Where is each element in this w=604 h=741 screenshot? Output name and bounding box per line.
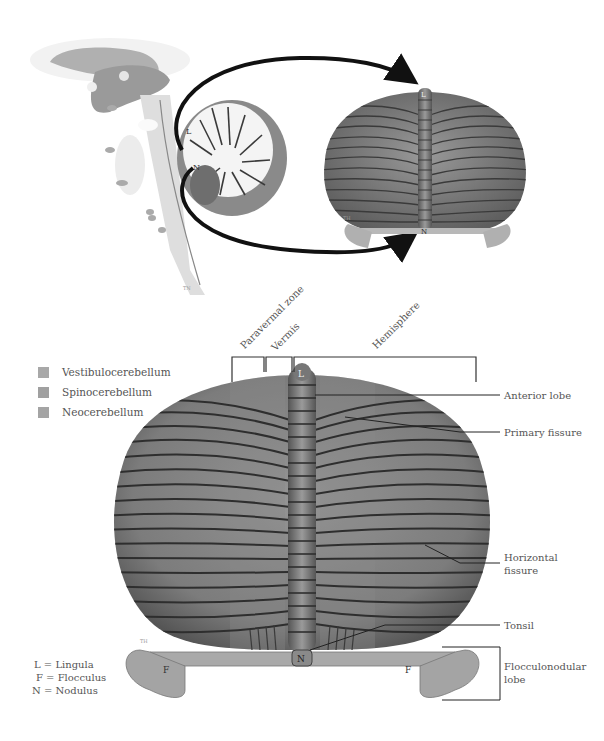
label-flocculonodular-lobe: Flocculonodular lobe xyxy=(504,660,586,686)
nodulus-marker: N xyxy=(297,654,305,664)
swatch-neocerebellum xyxy=(38,407,49,418)
lingula-marker-sagittal: L xyxy=(186,127,192,136)
svg-text:N: N xyxy=(421,228,427,236)
posterior-view-small: L N TH xyxy=(320,88,530,248)
swatch-vestibulocerebellum xyxy=(38,367,49,378)
key-nodulus: N = Nodulus xyxy=(32,684,106,697)
lingula-marker: L xyxy=(298,369,304,379)
swatch-spinocerebellum xyxy=(38,387,49,398)
svg-text:TN: TN xyxy=(183,285,191,291)
legend-label: Spinocerebellum xyxy=(62,386,152,398)
key-flocculus: F = Flocculus xyxy=(34,671,106,684)
sagittal-view: L N TN xyxy=(30,38,287,295)
nodulus-marker-sagittal: N xyxy=(193,163,200,172)
label-tonsil: Tonsil xyxy=(504,619,534,632)
abbreviation-key: L = Lingula F = Flocculus N = Nodulus xyxy=(34,658,106,697)
label-anterior-lobe: Anterior lobe xyxy=(504,389,571,402)
svg-text:TH: TH xyxy=(140,638,148,644)
label-horizontal-fissure: Horizontal fissure xyxy=(504,551,558,577)
key-lingula: L = Lingula xyxy=(34,658,106,671)
flocculus-marker-left: F xyxy=(163,665,169,675)
svg-text:TH: TH xyxy=(343,215,351,221)
legend-label: Vestibulocerebellum xyxy=(62,366,171,378)
legend-label: Neocerebellum xyxy=(62,406,143,418)
legend-item-neocerebellum: Neocerebellum xyxy=(38,402,171,422)
legend-item-vestibulocerebellum: Vestibulocerebellum xyxy=(38,362,171,382)
flocculus-marker-right: F xyxy=(405,665,411,675)
legend-item-spinocerebellum: Spinocerebellum xyxy=(38,382,171,402)
svg-text:L: L xyxy=(421,91,426,99)
label-primary-fissure: Primary fissure xyxy=(504,426,582,439)
legend: Vestibulocerebellum Spinocerebellum Neoc… xyxy=(38,362,171,422)
